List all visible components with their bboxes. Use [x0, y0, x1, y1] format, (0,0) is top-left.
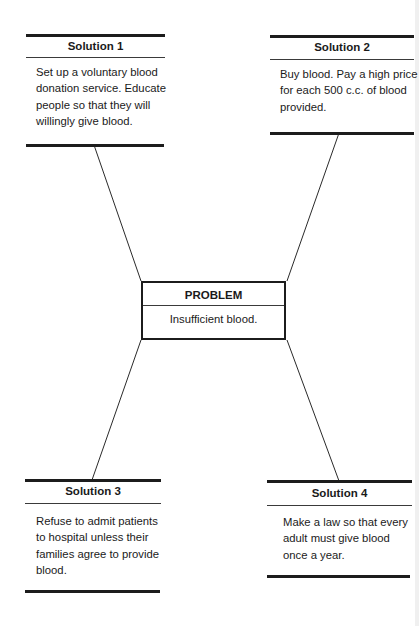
solution-3-text: Refuse to admit patients to hospital unl… [36, 513, 159, 578]
connector-solution-2 [287, 133, 339, 281]
text-line: families agree to provide [36, 546, 159, 562]
solution-3-top-rule [25, 479, 161, 482]
text-line: donation service. Educate [36, 80, 166, 96]
solution-4-heading: Solution 4 [267, 487, 412, 499]
text-line: Buy blood. Pay a high price [280, 66, 418, 82]
problem-heading: PROBLEM [143, 289, 284, 301]
text-line: Make a law so that every [283, 514, 408, 530]
solution-4-top-rule [267, 480, 412, 483]
text-line: blood. [36, 562, 159, 578]
solution-4-divider [267, 505, 412, 506]
solution-2-text: Buy blood. Pay a high price for each 500… [280, 66, 418, 115]
solution-2-heading: Solution 2 [270, 41, 414, 53]
solution-2-top-rule [270, 35, 414, 38]
solution-1-text: Set up a voluntary blood donation servic… [36, 64, 166, 129]
connector-solution-1 [94, 145, 141, 281]
solution-3-divider [25, 503, 161, 504]
solution-2-bottom-rule [270, 132, 414, 135]
connector-solution-4 [287, 340, 339, 481]
solution-1-bottom-rule [26, 144, 164, 147]
text-line: once a year. [283, 547, 408, 563]
solution-3-bottom-rule [25, 590, 160, 593]
solution-1-heading: Solution 1 [26, 40, 165, 52]
text-line: willingly give blood. [36, 113, 166, 129]
solution-3-heading: Solution 3 [25, 485, 161, 497]
text-line: provided. [280, 99, 418, 115]
text-line: people so that they will [36, 97, 166, 113]
problem-divider [143, 305, 284, 306]
text-line: to hospital unless their [36, 529, 159, 545]
solution-1-top-rule [26, 34, 165, 37]
solution-2-divider [270, 59, 414, 60]
text-line: Set up a voluntary blood [36, 64, 166, 80]
text-line: adult must give blood [283, 530, 408, 546]
text-line: Refuse to admit patients [36, 513, 159, 529]
solution-1-divider [26, 57, 165, 58]
solution-4-text: Make a law so that every adult must give… [283, 514, 408, 563]
problem-text: Insufficient blood. [143, 311, 284, 327]
problem-box: PROBLEM Insufficient blood. [141, 281, 286, 340]
connector-solution-3 [92, 340, 141, 480]
text-line: for each 500 c.c. of blood [280, 82, 418, 98]
solution-4-bottom-rule [267, 575, 410, 578]
